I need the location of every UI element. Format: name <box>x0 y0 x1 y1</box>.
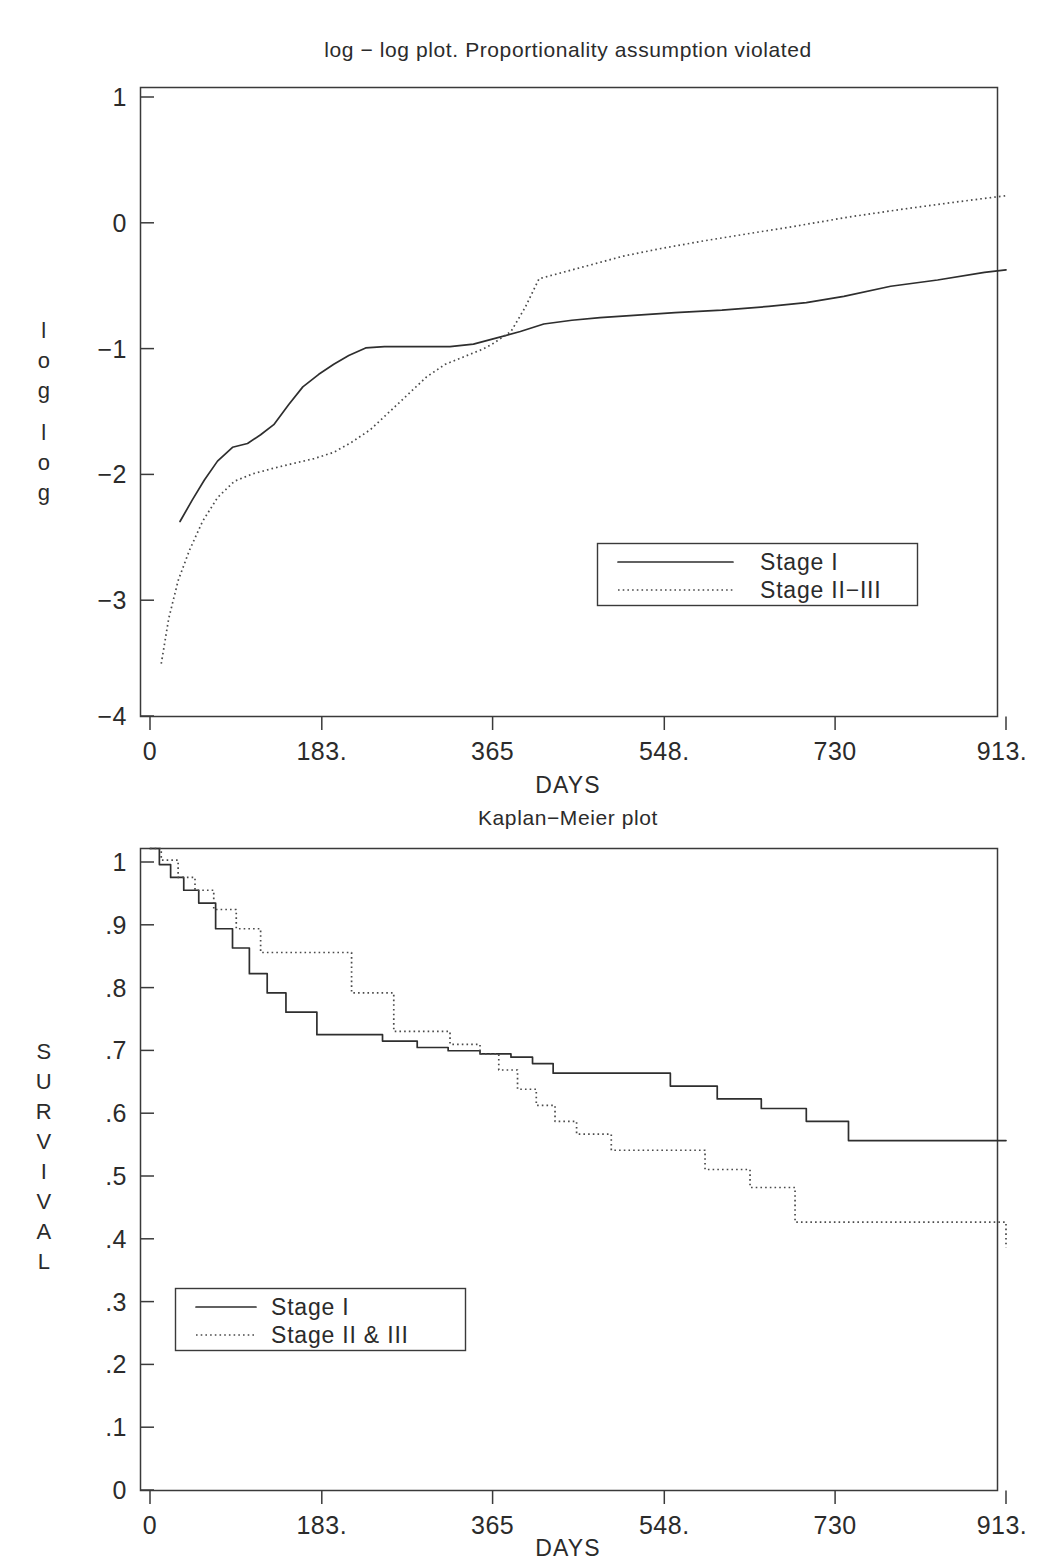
y-tick-loglog-5: −4 <box>97 702 154 730</box>
y-axis-kaplanmeier: 1 .9 .8 .7 .6 <box>105 848 154 1504</box>
y-axis-label-char-1: o <box>38 348 51 373</box>
y-axis-label-kaplanmeier: S U R V I V A L <box>36 1039 52 1274</box>
chart-kaplanmeier: Kaplan−Meier plot 1 .9 .8 .7 <box>36 806 1028 1561</box>
y-axis-label-km-char-7: L <box>38 1249 51 1274</box>
x-axis-loglog: 0 183. 365 548. 730 <box>143 717 1028 766</box>
y-tick-label-km-4: .6 <box>105 1099 127 1127</box>
y-tick-label-loglog-0: 1 <box>113 83 127 111</box>
x-tick-km-0: 0 <box>143 1491 157 1540</box>
x-tick-label-loglog-3: 548. <box>639 737 690 765</box>
series-step-km-stage-ii-iii <box>150 849 1006 1248</box>
x-tick-label-loglog-0: 0 <box>143 737 157 765</box>
y-tick-km-8: .2 <box>105 1350 154 1378</box>
x-tick-label-loglog-2: 365 <box>471 737 514 765</box>
x-tick-label-km-5: 913. <box>977 1511 1028 1539</box>
y-tick-loglog-3: −2 <box>97 460 154 488</box>
legend-label-loglog-1: Stage II−III <box>760 577 881 603</box>
series-step-km-stage-i <box>150 849 1006 1141</box>
y-axis-label-km-char-2: R <box>36 1099 52 1124</box>
y-tick-km-0: 1 <box>113 848 154 876</box>
y-tick-label-loglog-5: −4 <box>97 702 127 730</box>
x-tick-km-4: 730 <box>813 1491 856 1540</box>
y-tick-km-9: .1 <box>105 1413 154 1441</box>
chart-loglog: log − log plot. Proportionality assumpti… <box>38 38 1028 798</box>
y-tick-label-loglog-1: 0 <box>113 209 127 237</box>
y-tick-label-km-8: .2 <box>105 1350 127 1378</box>
x-axis-label-kaplanmeier: DAYS <box>535 1535 601 1561</box>
x-tick-label-km-1: 183. <box>296 1511 347 1539</box>
y-tick-loglog-4: −3 <box>97 586 154 614</box>
y-tick-loglog-2: −1 <box>97 335 154 363</box>
y-tick-km-1: .9 <box>105 911 154 939</box>
y-tick-label-loglog-2: −1 <box>97 335 127 363</box>
y-tick-label-km-10: 0 <box>113 1476 127 1504</box>
y-tick-km-6: .4 <box>105 1225 154 1253</box>
y-axis-label-char-4: l <box>41 420 46 445</box>
y-tick-label-loglog-4: −3 <box>97 586 127 614</box>
chart-title-loglog: log − log plot. Proportionality assumpti… <box>324 38 812 61</box>
x-tick-km-3: 548. <box>639 1491 690 1540</box>
x-tick-loglog-5: 913. <box>977 717 1028 766</box>
x-axis-kaplanmeier: 0 183. 365 548. 730 <box>143 1491 1028 1540</box>
chart-title-kaplanmeier: Kaplan−Meier plot <box>478 806 658 829</box>
y-tick-km-5: .5 <box>105 1162 154 1190</box>
y-tick-label-km-2: .8 <box>105 974 127 1002</box>
x-tick-km-2: 365 <box>471 1491 514 1540</box>
x-tick-label-loglog-4: 730 <box>813 737 856 765</box>
x-tick-loglog-2: 365 <box>471 717 514 766</box>
x-tick-label-km-0: 0 <box>143 1511 157 1539</box>
x-tick-loglog-1: 183. <box>296 717 347 766</box>
y-tick-label-km-3: .7 <box>105 1036 127 1064</box>
legend-kaplanmeier: Stage I Stage II & III <box>176 1289 466 1351</box>
x-tick-km-5: 913. <box>977 1491 1028 1540</box>
y-tick-km-7: .3 <box>105 1288 154 1316</box>
x-tick-loglog-0: 0 <box>143 717 157 766</box>
y-axis-label-km-char-0: S <box>36 1039 51 1064</box>
x-tick-label-loglog-5: 913. <box>977 737 1028 765</box>
y-tick-label-km-9: .1 <box>105 1413 127 1441</box>
x-tick-loglog-4: 730 <box>813 717 856 766</box>
figure-container: log − log plot. Proportionality assumpti… <box>0 0 1041 1562</box>
y-tick-km-4: .6 <box>105 1099 154 1127</box>
y-tick-km-2: .8 <box>105 974 154 1002</box>
legend-loglog: Stage I Stage II−III <box>598 544 918 606</box>
y-axis-label-char-2: g <box>38 378 51 403</box>
y-axis-label-km-char-3: V <box>36 1129 51 1154</box>
plot-frame-kaplanmeier <box>141 849 998 1491</box>
y-axis-label-char-0: l <box>41 318 46 343</box>
y-tick-km-10: 0 <box>113 1476 154 1504</box>
plot-frame-loglog <box>141 88 998 717</box>
y-axis-label-km-char-5: V <box>36 1189 51 1214</box>
x-tick-label-km-4: 730 <box>813 1511 856 1539</box>
y-axis-loglog: 1 0 −1 −2 −3 <box>97 83 154 730</box>
y-tick-label-km-5: .5 <box>105 1162 127 1190</box>
x-tick-label-km-2: 365 <box>471 1511 514 1539</box>
y-axis-label-char-5: o <box>38 450 51 475</box>
legend-label-km-1: Stage II & III <box>271 1322 409 1348</box>
legend-label-km-0: Stage I <box>271 1294 350 1320</box>
y-axis-label-km-char-6: A <box>36 1219 51 1244</box>
y-axis-label-loglog: l o g l o g <box>38 318 51 505</box>
y-tick-loglog-1: 0 <box>113 209 154 237</box>
y-tick-label-km-0: 1 <box>113 848 127 876</box>
x-tick-label-km-3: 548. <box>639 1511 690 1539</box>
x-tick-label-loglog-1: 183. <box>296 737 347 765</box>
y-tick-label-loglog-3: −2 <box>97 460 127 488</box>
x-tick-loglog-3: 548. <box>639 717 690 766</box>
series-line-loglog-stage-i <box>180 270 1006 522</box>
y-axis-label-km-char-1: U <box>36 1069 52 1094</box>
x-tick-km-1: 183. <box>296 1491 347 1540</box>
x-axis-label-loglog: DAYS <box>535 772 601 798</box>
legend-label-loglog-0: Stage I <box>760 549 839 575</box>
y-tick-km-3: .7 <box>105 1036 154 1064</box>
y-axis-label-char-6: g <box>38 480 51 505</box>
y-tick-label-km-6: .4 <box>105 1225 127 1253</box>
figure-svg: log − log plot. Proportionality assumpti… <box>0 0 1041 1562</box>
y-tick-label-km-7: .3 <box>105 1288 127 1316</box>
y-axis-label-km-char-4: I <box>41 1159 48 1184</box>
y-tick-label-km-1: .9 <box>105 911 127 939</box>
